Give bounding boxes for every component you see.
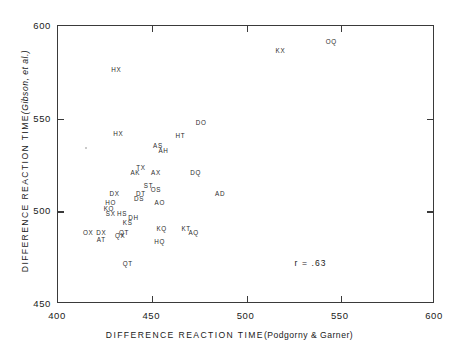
data-point-label: DS [134, 195, 144, 202]
y-tick-label: 450 [23, 298, 51, 309]
y-axis-title-paren: (Gibson, et al.) [20, 50, 30, 114]
x-tick-bottom [247, 296, 248, 303]
data-point-label: AD [215, 189, 225, 196]
y-axis-title: DIFFERENCE REACTION TIME(Gibson, et al.) [20, 11, 30, 311]
data-point-label: DO [196, 119, 207, 126]
data-point-label: AK [130, 169, 140, 176]
data-point-label: DQ [190, 169, 201, 176]
faint-mark [85, 147, 87, 149]
x-axis-title-main: DIFFERENCE REACTION TIME [106, 330, 264, 340]
data-point-label: AH [158, 147, 168, 154]
y-tick-label: 500 [23, 205, 51, 216]
data-point-label: HQ [154, 237, 165, 244]
data-point-label: HT [176, 132, 186, 139]
data-point-label: HS [117, 210, 127, 217]
data-point-label: DX [96, 228, 106, 235]
y-tick-label: 550 [23, 112, 51, 123]
x-tick-bottom [341, 296, 342, 303]
chart-annotation-correlation: r = .63 [295, 258, 327, 268]
data-point-label: HX [113, 130, 123, 137]
x-axis-title: DIFFERENCE REACTION TIME(Podgorny & Garn… [0, 330, 459, 340]
data-point-label: AQ [188, 228, 199, 235]
data-point-label: KQ [156, 225, 167, 232]
y-tick-right [427, 119, 434, 120]
data-point-label: HX [111, 65, 121, 72]
data-point-label: SX [106, 210, 116, 217]
data-point-label: AO [155, 199, 166, 206]
data-point-label: AX [151, 169, 161, 176]
data-point-label: QT [123, 260, 133, 267]
x-axis-title-paren: (Podgorny & Garner) [264, 330, 353, 340]
data-point-label: QX [115, 232, 126, 239]
x-tick-top [341, 25, 342, 32]
data-point-label: DX [109, 189, 119, 196]
x-tick-label: 450 [142, 310, 160, 321]
plot-area: OQKXHXDOHXHTASAHTXAKAXDQSTOSDXDTADDSHOAO… [58, 26, 433, 302]
data-point-label: AT [97, 236, 106, 243]
y-axis-title-main: DIFFERENCE REACTION TIME [20, 114, 30, 272]
x-tick-top [152, 25, 153, 32]
x-tick-label: 500 [237, 310, 255, 321]
scatter-plot-figure: OQKXHXDOHXHTASAHTXAKAXDQSTOSDXDTADDSHOAO… [0, 0, 459, 350]
x-tick-bottom [152, 296, 153, 303]
x-tick-top [247, 25, 248, 32]
y-tick-left [57, 119, 64, 120]
x-tick-label: 400 [48, 310, 66, 321]
y-tick-left [57, 211, 64, 212]
data-point-label: KX [276, 47, 286, 54]
y-tick-right [427, 211, 434, 212]
y-tick-label: 600 [23, 20, 51, 31]
data-point-label: OS [151, 186, 162, 193]
x-tick-label: 600 [425, 310, 443, 321]
data-point-label: OX [83, 228, 94, 235]
data-point-label: KS [123, 219, 133, 226]
data-point-label: OQ [326, 37, 337, 44]
plot-frame: OQKXHXDOHXHTASAHTXAKAXDQSTOSDXDTADDSHOAO… [57, 25, 434, 303]
x-tick-label: 550 [331, 310, 349, 321]
